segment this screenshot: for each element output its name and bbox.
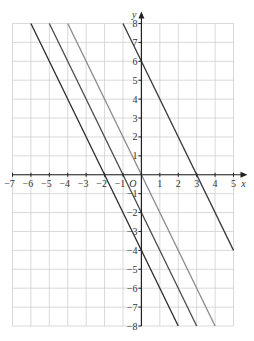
y-tick-label: −7 [127, 302, 138, 313]
x-tick-label: 5 [231, 178, 236, 189]
x-tick-label: −7 [4, 178, 15, 189]
y-tick-label: −8 [127, 321, 138, 332]
coordinate-plane: −7−6−5−4−3−2−11234587654321−1−2−3−4−5−6−… [0, 0, 254, 341]
y-tick-label: 8 [132, 18, 137, 29]
y-tick-label: −4 [127, 245, 138, 256]
tick-labels: −7−6−5−4−3−2−11234587654321−1−2−3−4−5−6−… [4, 9, 246, 332]
y-tick-label: −3 [127, 226, 138, 237]
y-axis-arrow-icon [138, 12, 144, 19]
x-tick-label: 1 [157, 178, 162, 189]
x-tick-label: −3 [78, 178, 89, 189]
y-tick-label: 5 [132, 75, 137, 86]
x-tick-label: 3 [194, 178, 199, 189]
y-tick-label: 1 [132, 150, 137, 161]
y-tick-label: 6 [132, 56, 137, 67]
y-tick-label: 7 [132, 37, 137, 48]
y-tick-label: 3 [132, 113, 137, 124]
y-tick-label: −6 [127, 283, 138, 294]
x-axis-label: x [240, 178, 246, 189]
x-tick-label: −4 [59, 178, 70, 189]
x-tick-label: −6 [23, 178, 34, 189]
y-tick-label: −5 [127, 264, 138, 275]
x-tick-label: −1 [115, 178, 126, 189]
origin-label: O [129, 178, 136, 189]
x-tick-label: 2 [176, 178, 181, 189]
y-tick-label: 4 [132, 94, 137, 105]
y-tick-label: −1 [127, 188, 138, 199]
y-axis-label: y [131, 9, 137, 20]
x-tick-label: 4 [213, 178, 218, 189]
y-tick-label: 2 [132, 131, 137, 142]
x-tick-label: −5 [41, 178, 52, 189]
x-tick-label: −2 [96, 178, 107, 189]
y-tick-label: −2 [127, 207, 138, 218]
